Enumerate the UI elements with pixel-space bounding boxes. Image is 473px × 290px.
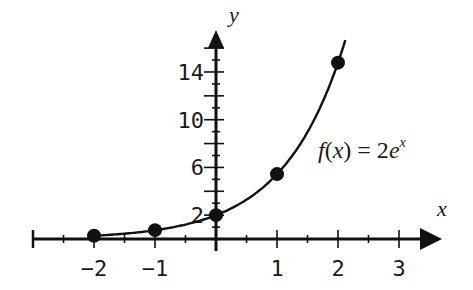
x-axis-label: x xyxy=(436,196,447,221)
y-tick-label: 6 xyxy=(191,155,204,180)
x-tick-label: 1 xyxy=(270,256,283,281)
y-tick-label: 10 xyxy=(178,108,205,133)
function-label: f(x) = 2ex xyxy=(318,135,407,163)
y-axis-arrow-icon xyxy=(208,30,224,48)
data-point xyxy=(209,208,223,222)
x-tick-label: 3 xyxy=(392,256,405,281)
data-point xyxy=(87,229,101,243)
exponential-function-chart: −2−1123261014 y x f(x) = 2ex xyxy=(0,0,473,290)
data-point xyxy=(331,56,345,70)
x-tick-label: 2 xyxy=(331,256,344,281)
data-point xyxy=(148,223,162,237)
data-point xyxy=(270,167,284,181)
x-axis-arrow-icon xyxy=(420,228,442,250)
y-tick-label: 14 xyxy=(178,60,205,85)
tick-labels: −2−1123261014 xyxy=(81,60,406,281)
x-tick-label: −2 xyxy=(81,256,108,281)
y-tick-label: 2 xyxy=(191,203,204,228)
y-axis-label: y xyxy=(227,2,239,27)
x-tick-label: −1 xyxy=(142,256,169,281)
